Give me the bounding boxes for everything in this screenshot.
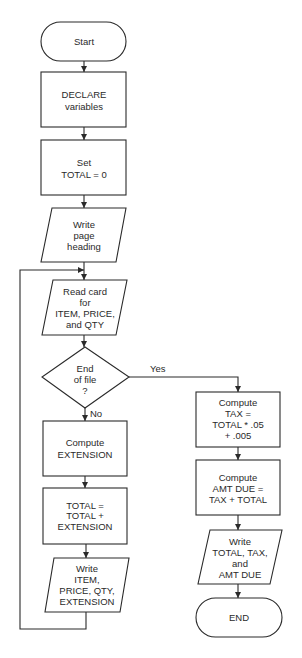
read-card-io: Read card for ITEM, PRICE, and QTY — [42, 280, 127, 335]
compute-tax-label-line4: + .005 — [225, 430, 252, 441]
write-totals-label-line4: AMT DUE — [219, 569, 262, 580]
set-total-process: Set TOTAL = 0 — [41, 140, 126, 195]
end-of-file-decision: End of file ? — [42, 347, 129, 408]
compute-amt-due-label-line1: Compute — [219, 472, 258, 483]
write-item-label-line4: EXTENSION — [60, 596, 115, 607]
compute-extension-label-line2: EXTENSION — [58, 449, 113, 460]
set-total-label-line2: TOTAL = 0 — [61, 169, 107, 180]
declare-variables-process: DECLARE variables — [41, 72, 126, 127]
write-totals-label-line2: TOTAL, TAX, — [212, 547, 267, 558]
flowchart: Yes No Start DECLARE variables Set TOTAL… — [0, 0, 302, 658]
write-heading-label-line1: Write — [73, 219, 95, 230]
write-item-label-line1: Write — [76, 563, 98, 574]
read-card-label-line4: and QTY — [66, 319, 105, 330]
write-heading-io: Write page heading — [41, 208, 126, 262]
write-totals-label-line1: Write — [229, 536, 251, 547]
write-heading-label-line2: page — [73, 230, 94, 241]
read-card-label-line1: Read card — [63, 286, 107, 297]
edge-label-no: No — [90, 408, 102, 419]
write-totals-io: Write TOTAL, TAX, and AMT DUE — [198, 530, 282, 584]
compute-tax-label-line1: Compute — [219, 397, 258, 408]
compute-tax-label-line3: TOTAL * .05 — [212, 419, 264, 430]
start-terminal: Start — [41, 22, 126, 61]
compute-tax-process: Compute TAX = TOTAL * .05 + .005 — [196, 392, 280, 447]
accumulate-label-line3: EXTENSION — [58, 521, 113, 532]
compute-amt-due-label-line3: TAX + TOTAL — [209, 494, 267, 505]
write-heading-label-line3: heading — [67, 241, 101, 252]
write-item-label-line2: ITEM, — [74, 574, 99, 585]
start-label: Start — [74, 36, 94, 47]
read-card-label-line2: for — [79, 297, 90, 308]
write-totals-label-line3: and — [232, 558, 248, 569]
accumulate-label-line2: TOTAL + — [66, 510, 104, 521]
decision-label-line3: ? — [82, 385, 87, 396]
edge-label-yes: Yes — [150, 363, 166, 374]
compute-extension-label-line1: Compute — [66, 437, 105, 448]
declare-label-line2: variables — [65, 101, 103, 112]
end-terminal: END — [196, 598, 282, 637]
accumulate-total-process: TOTAL = TOTAL + EXTENSION — [43, 488, 127, 544]
compute-extension-process: Compute EXTENSION — [43, 421, 127, 476]
decision-label-line1: End — [77, 363, 94, 374]
decision-label-line2: of file — [74, 374, 97, 385]
compute-amt-due-label-line2: AMT DUE = — [213, 483, 264, 494]
end-label: END — [229, 612, 249, 623]
compute-tax-label-line2: TAX = — [225, 408, 251, 419]
read-card-label-line3: ITEM, PRICE, — [55, 308, 115, 319]
compute-amt-due-process: Compute AMT DUE = TAX + TOTAL — [196, 460, 280, 515]
write-item-io: Write ITEM, PRICE, QTY, EXTENSION — [45, 558, 129, 612]
declare-label-line1: DECLARE — [62, 89, 107, 100]
write-item-label-line3: PRICE, QTY, — [59, 585, 114, 596]
set-total-label-line1: Set — [77, 157, 92, 168]
